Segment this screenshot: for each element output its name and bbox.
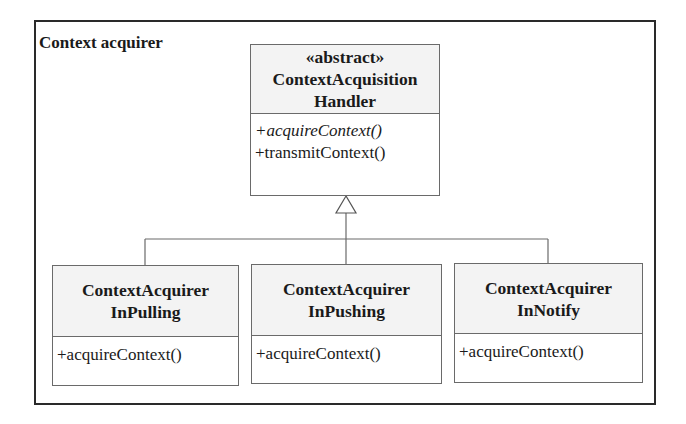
class-name-line: ContextAcquirer [283, 278, 410, 300]
operation-acquire-context: +acquireContext() [255, 120, 436, 142]
operation-acquire-context: +acquireContext() [459, 341, 639, 363]
class-context-acquirer-in-pushing[interactable]: ContextAcquirer InPushing +acquireContex… [251, 264, 442, 384]
operation-transmit-context: +transmitContext() [255, 142, 436, 164]
generalization-arrow-icon [336, 196, 356, 213]
stereotype-label: «abstract» [306, 46, 385, 68]
class-header: ContextAcquirer InNotify [455, 264, 642, 334]
operations-compartment: +acquireContext() [455, 334, 642, 363]
class-header: ContextAcquirer InPushing [252, 265, 441, 336]
operations-compartment: +acquireContext() +transmitContext() [251, 114, 439, 164]
operations-compartment: +acquireContext() [252, 336, 441, 365]
class-name-line: InPulling [110, 301, 180, 323]
class-header: ContextAcquirer InPulling [53, 266, 238, 337]
class-name-line: Handler [314, 90, 376, 112]
class-context-acquisition-handler[interactable]: «abstract» ContextAcquisition Handler +a… [250, 44, 440, 196]
class-context-acquirer-in-notify[interactable]: ContextAcquirer InNotify +acquireContext… [454, 263, 643, 383]
class-name-line: ContextAcquirer [82, 279, 209, 301]
class-header: «abstract» ContextAcquisition Handler [251, 45, 439, 114]
operations-compartment: +acquireContext() [53, 337, 238, 366]
class-name-line: ContextAcquirer [485, 277, 612, 299]
class-name-line: InPushing [308, 300, 385, 322]
class-name-line: ContextAcquisition [273, 68, 418, 90]
operation-acquire-context: +acquireContext() [256, 343, 438, 365]
operation-acquire-context: +acquireContext() [57, 344, 235, 366]
class-name-line: InNotify [517, 299, 580, 321]
class-context-acquirer-in-pulling[interactable]: ContextAcquirer InPulling +acquireContex… [52, 265, 239, 386]
